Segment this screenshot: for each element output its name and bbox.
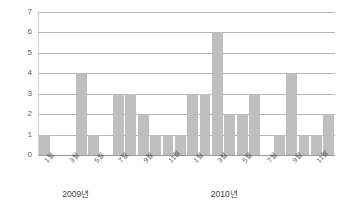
y-tick-label-4: 4 — [10, 69, 32, 77]
bar[interactable] — [88, 135, 99, 155]
bar[interactable] — [224, 114, 235, 155]
bar-slot — [63, 12, 75, 155]
bar[interactable] — [212, 32, 223, 155]
bar-slot — [261, 12, 273, 155]
bar[interactable] — [125, 94, 136, 155]
bars-layer — [38, 12, 335, 155]
y-tick-label-1: 1 — [10, 131, 32, 139]
bar-slot — [50, 12, 62, 155]
bar-slot — [211, 12, 223, 155]
bar-slot — [75, 12, 87, 155]
bar[interactable] — [274, 135, 285, 155]
bar[interactable] — [39, 135, 50, 155]
y-tick-label-5: 5 — [10, 49, 32, 57]
bar[interactable] — [200, 94, 211, 155]
bar[interactable] — [286, 73, 297, 155]
bar-slot — [137, 12, 149, 155]
bar-slot — [248, 12, 260, 155]
bar-slot — [199, 12, 211, 155]
year-label: 2009년 — [62, 190, 89, 199]
x-axis-baseline — [38, 155, 335, 156]
bar-chart: 01234567 1월3월5월7월9월11월1월3월5월7월9월11월 2009… — [0, 0, 347, 218]
y-tick-label-3: 3 — [10, 90, 32, 98]
bar[interactable] — [323, 114, 334, 155]
bar[interactable] — [138, 114, 149, 155]
bar[interactable] — [187, 94, 198, 155]
bar-slot — [88, 12, 100, 155]
bar-slot — [149, 12, 161, 155]
bar-slot — [187, 12, 199, 155]
x-axis-tick-labels: 1월3월5월7월9월11월1월3월5월7월9월11월 — [38, 157, 335, 187]
bar-slot — [298, 12, 310, 155]
bar-slot — [174, 12, 186, 155]
bar[interactable] — [76, 73, 87, 155]
bar[interactable] — [299, 135, 310, 155]
bar-slot — [38, 12, 50, 155]
bar[interactable] — [237, 114, 248, 155]
year-label: 2010년 — [211, 190, 238, 199]
bar-slot — [162, 12, 174, 155]
bar[interactable] — [163, 135, 174, 155]
bar-slot — [236, 12, 248, 155]
y-tick-label-0: 0 — [10, 151, 32, 159]
bar-slot — [125, 12, 137, 155]
bar-slot — [112, 12, 124, 155]
bar-slot — [224, 12, 236, 155]
y-tick-label-7: 7 — [10, 8, 32, 16]
bar-slot — [310, 12, 322, 155]
y-tick-label-2: 2 — [10, 110, 32, 118]
bar[interactable] — [150, 135, 161, 155]
bar-slot — [323, 12, 335, 155]
bar-slot — [100, 12, 112, 155]
bar[interactable] — [113, 94, 124, 155]
y-tick-label-6: 6 — [10, 28, 32, 36]
bar-slot — [273, 12, 285, 155]
bar-slot — [286, 12, 298, 155]
bar[interactable] — [249, 94, 260, 155]
